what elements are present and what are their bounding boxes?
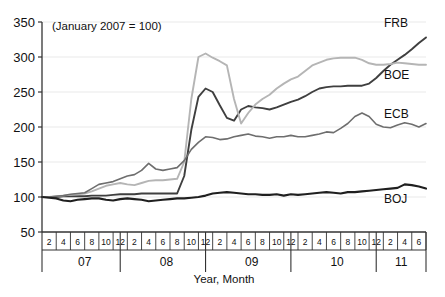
x-axis-title: Year, Month (194, 273, 255, 285)
x-month-label-08-10: 10 (187, 237, 197, 247)
x-month-label-08-6: 6 (161, 237, 166, 247)
x-month-label-08-4: 4 (146, 237, 151, 247)
x-month-label-09-8: 8 (260, 237, 265, 247)
x-year-label-11: 11 (395, 255, 408, 269)
series-label-boe: BOE (384, 68, 409, 82)
chart-container: 2468101207246810120824681012092468101210… (0, 0, 445, 297)
y-tick-label-350: 350 (13, 15, 35, 30)
x-month-label-08-2: 2 (132, 237, 137, 247)
x-year-label-08: 08 (160, 255, 174, 269)
x-month-label-07-10: 10 (101, 237, 111, 247)
x-month-label-09-2: 2 (217, 237, 222, 247)
x-month-label-09-4: 4 (232, 237, 237, 247)
x-month-label-10-6: 6 (331, 237, 336, 247)
x-year-label-10: 10 (330, 255, 344, 269)
series-label-ecb: ECB (384, 107, 409, 121)
y-tick-label-250: 250 (13, 85, 35, 100)
y-tick-label-150: 150 (13, 155, 35, 170)
line-chart: 2468101207246810120824681012092468101210… (0, 0, 445, 297)
x-month-label-07-2: 2 (47, 237, 52, 247)
series-label-frb: FRB (384, 16, 408, 30)
x-month-label-07-6: 6 (75, 237, 80, 247)
x-month-label-10-2: 2 (303, 237, 308, 247)
x-month-label-07-4: 4 (61, 237, 66, 247)
x-month-label-10-4: 4 (317, 237, 322, 247)
y-tick-label-200: 200 (13, 120, 35, 135)
y-tick-label-100: 100 (13, 190, 35, 205)
x-month-label-07-8: 8 (89, 237, 94, 247)
x-year-label-07: 07 (78, 255, 92, 269)
x-month-label-11-4: 4 (402, 237, 407, 247)
chart-background (0, 0, 445, 297)
y-tick-label-50: 50 (21, 225, 35, 240)
x-year-label-09: 09 (245, 255, 259, 269)
y-tick-label-300: 300 (13, 50, 35, 65)
series-label-boj: BOJ (384, 192, 407, 206)
x-month-label-10-8: 8 (345, 237, 350, 247)
chart-note: (January 2007 = 100) (52, 20, 162, 32)
x-month-label-10-10: 10 (357, 237, 367, 247)
x-month-label-11-2: 2 (388, 237, 393, 247)
x-month-label-08-8: 8 (175, 237, 180, 247)
x-month-label-11-6: 6 (417, 237, 422, 247)
x-month-label-09-10: 10 (272, 237, 282, 247)
x-month-label-09-6: 6 (246, 237, 251, 247)
